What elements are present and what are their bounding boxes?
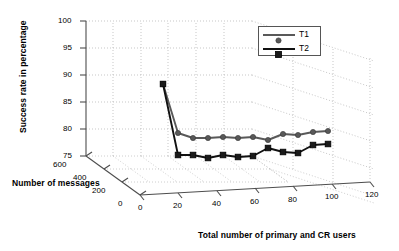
- legend: T1 T2: [258, 26, 321, 56]
- xtick-label-20: 20: [173, 201, 182, 210]
- ztick-label-90: 90: [63, 70, 72, 79]
- y-axis-title: Number of messages: [12, 178, 100, 188]
- legend-label-t2: T2: [299, 43, 309, 53]
- grid-lines: [86, 21, 374, 203]
- ztick-label-80: 80: [63, 124, 72, 133]
- xtick-label-0: 0: [138, 203, 142, 212]
- x-axis-title: Total number of primary and CR users: [198, 230, 356, 240]
- xtick-label-40: 40: [212, 199, 221, 208]
- legend-marker-square-icon: [275, 44, 282, 51]
- legend-marker-circle-icon: [275, 30, 282, 37]
- z-axis-title: Success rate in percentage: [18, 33, 28, 133]
- chart-figure: 100 95 90 85 80 75 600 400 200 0 0 20 40…: [0, 0, 399, 251]
- ytick-label-0: 0: [118, 199, 122, 208]
- xtick-label-100: 100: [325, 192, 338, 201]
- data-series-t1: [160, 81, 330, 142]
- ztick-label-75: 75: [63, 151, 72, 160]
- data-series-t2: [160, 81, 331, 161]
- xtick-label-60: 60: [250, 197, 259, 206]
- ztick-label-95: 95: [63, 43, 72, 52]
- ztick-label-85: 85: [63, 97, 72, 106]
- xtick-label-120: 120: [365, 190, 378, 199]
- legend-entry-t1: T1: [259, 28, 320, 42]
- legend-label-t1: T1: [299, 29, 309, 39]
- legend-entry-t2: T2: [259, 42, 320, 56]
- xtick-label-80: 80: [288, 195, 297, 204]
- plot-canvas: [0, 0, 399, 251]
- ytick-label-600: 600: [53, 160, 66, 169]
- ztick-label-100: 100: [58, 16, 71, 25]
